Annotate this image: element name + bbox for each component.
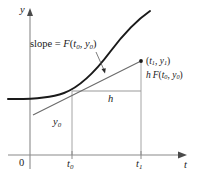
slope-leader-arrowhead — [102, 68, 106, 73]
t-axis-arrowhead — [178, 152, 187, 159]
step-increment-label: h F(t0, y0) — [146, 71, 183, 81]
euler-method-figure: slope = F(t0, y0) (t1, y1) h F(t0, y0) h… — [0, 0, 198, 185]
y-axis-arrowhead — [27, 8, 33, 16]
slope-label: slope = F(t0, y0) — [30, 39, 97, 50]
solution-curve — [8, 11, 150, 99]
t-axis-label: t — [184, 160, 187, 171]
t1-tick-label: t1 — [136, 159, 142, 170]
t0-tick-label: t0 — [67, 159, 73, 170]
origin-label: 0 — [19, 158, 24, 169]
figure-canvas — [0, 0, 198, 185]
step-size-label: h — [108, 94, 113, 105]
tangent-line — [33, 61, 141, 115]
initial-value-label: y0 — [53, 117, 61, 128]
y-axis-label: y — [20, 5, 25, 16]
euler-point-marker — [139, 59, 143, 63]
euler-point-label: (t1, y1) — [146, 57, 170, 67]
